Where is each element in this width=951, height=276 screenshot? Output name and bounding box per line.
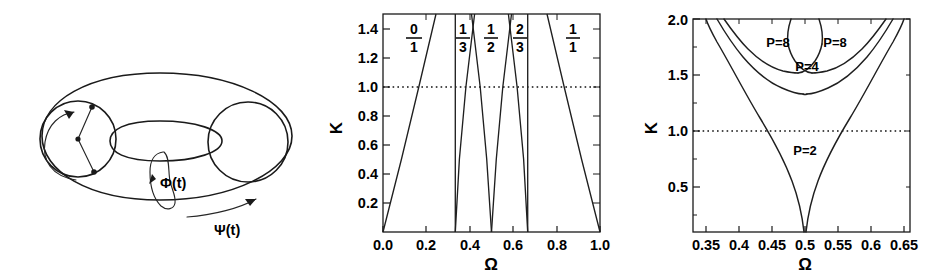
frac-num-1-1: 1 [569, 21, 577, 37]
annotation-p2: P=2 [793, 143, 817, 158]
ytick-0-2: 0.2 [358, 195, 378, 211]
zoom-xtick-0-45: 0.45 [758, 237, 786, 253]
xtick-1-0: 1.0 [590, 237, 610, 253]
tongues-x-ticklabels: 0.0 0.2 0.4 0.6 0.8 1.0 [373, 237, 610, 253]
frac-num-1-2: 1 [487, 21, 495, 37]
annotation-p8-right: P=8 [823, 35, 847, 50]
frac-den-1-3: 3 [459, 39, 467, 55]
tongues-ylabel: K [327, 121, 346, 134]
poloidal-radius-lower [78, 139, 94, 172]
psi-arrowhead [245, 199, 256, 206]
psi-label: Ψ(t) [214, 222, 240, 238]
zoom-ytick-1-0: 1.0 [668, 123, 688, 139]
zoom-y-ticks [693, 19, 910, 215]
poloidal-radius-upper [78, 107, 92, 139]
frac-den-2-3: 3 [516, 39, 524, 55]
panel-torus-schematic: Φ(t) Ψ(t) [0, 0, 320, 276]
poloidal-rotation-arc [44, 112, 76, 180]
zoom-xtick-0-6: 0.6 [861, 237, 881, 253]
curve-p4-right [807, 19, 893, 94]
ytick-1-2: 1.2 [358, 50, 378, 66]
ytick-0-8: 0.8 [358, 108, 378, 124]
zoom-xtick-0-65: 0.65 [890, 237, 918, 253]
ytick-1-4: 1.4 [358, 21, 378, 37]
panel-period-doubling: 0.5 1.0 1.5 2.0 0.35 0.4 0.45 0.5 0.55 0… [635, 0, 951, 276]
zoom-ylabel: K [642, 121, 661, 134]
tongues-y-ticks [383, 29, 600, 203]
zoom-xlabel: Ω [798, 255, 812, 274]
zoom-y-ticklabels: 0.5 1.0 1.5 2.0 [668, 12, 688, 195]
frac-num-2-3: 2 [516, 21, 524, 37]
zoom-ytick-0-5: 0.5 [668, 179, 688, 195]
poloidal-lower-dot [91, 169, 97, 175]
tongue-annotation-1-3: 1 3 [456, 21, 470, 55]
zoom-ytick-1-5: 1.5 [668, 67, 688, 83]
zoom-x-ticklabels: 0.35 0.4 0.45 0.5 0.55 0.6 0.65 [692, 237, 918, 253]
xtick-0-4: 0.4 [460, 237, 480, 253]
zoom-x-ticks [706, 19, 904, 232]
annotation-p8-left: P=8 [766, 35, 790, 50]
xtick-0-8: 0.8 [547, 237, 567, 253]
torus-right-cross-section [208, 102, 288, 182]
frac-den-1-1: 1 [569, 39, 577, 55]
tongue-annotation-1-1: 1 1 [566, 21, 580, 55]
zoom-xtick-0-4: 0.4 [729, 237, 749, 253]
panel-arnold-tongues: 0.2 0.4 0.6 0.8 1.0 1.2 1.4 0.0 0.2 0.4 … [320, 0, 635, 276]
frac-num-1-3: 1 [459, 21, 467, 37]
xtick-0-6: 0.6 [503, 237, 523, 253]
tongue-annotation-1-2: 1 2 [484, 21, 498, 55]
period-doubling-svg: 0.5 1.0 1.5 2.0 0.35 0.4 0.45 0.5 0.55 0… [635, 0, 951, 276]
frac-den-0-1: 1 [410, 39, 418, 55]
curve-p4-left [717, 19, 803, 94]
curve-p8-left-cusp [819, 19, 822, 44]
xtick-0-0: 0.0 [373, 237, 393, 253]
zoom-ytick-2-0: 2.0 [668, 12, 688, 28]
annotation-p4: P=4 [795, 59, 819, 74]
psi-arc [187, 199, 256, 217]
zoom-xtick-0-35: 0.35 [692, 237, 720, 253]
xtick-0-2: 0.2 [416, 237, 436, 253]
tongue-annotation-2-3: 2 3 [513, 21, 527, 55]
poloidal-center-dot [75, 136, 80, 141]
figure-container: Φ(t) Ψ(t) [0, 0, 951, 276]
torus-svg: Φ(t) Ψ(t) [0, 0, 320, 276]
phi-label: Φ(t) [160, 175, 187, 191]
arnold-tongues-svg: 0.2 0.4 0.6 0.8 1.0 1.2 1.4 0.0 0.2 0.4 … [320, 0, 635, 276]
tongues-y-ticklabels: 0.2 0.4 0.6 0.8 1.0 1.2 1.4 [358, 21, 378, 211]
tongue-annotation-0-1: 0 1 [406, 21, 422, 55]
frac-den-1-2: 2 [487, 39, 495, 55]
tongues-xlabel: Ω [484, 255, 498, 274]
ytick-0-6: 0.6 [358, 137, 378, 153]
ytick-1-0: 1.0 [358, 79, 378, 95]
zoom-plot-frame [693, 19, 910, 232]
poloidal-upper-dot [89, 104, 95, 110]
frac-num-0-1: 0 [410, 21, 418, 37]
ytick-0-4: 0.4 [358, 166, 378, 182]
zoom-xtick-0-55: 0.55 [824, 237, 852, 253]
zoom-xtick-0-5: 0.5 [795, 237, 815, 253]
